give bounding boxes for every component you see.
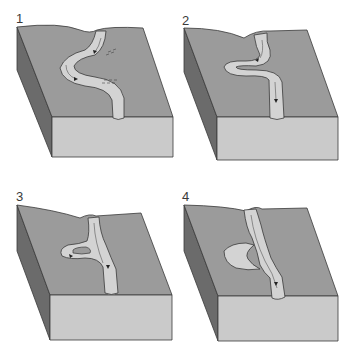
meander-neck: [73, 247, 91, 254]
panel-3: 3: [0, 173, 176, 346]
block-diagram-stage-3: [0, 173, 176, 346]
panel-4: 4: [176, 173, 352, 346]
block-diagram-stage-1: [0, 0, 176, 173]
panel-2: 2: [176, 0, 352, 173]
block-diagram-stage-4: [176, 173, 352, 346]
block-diagram-stage-2: [176, 0, 352, 173]
panel-1: 1: [0, 0, 176, 173]
